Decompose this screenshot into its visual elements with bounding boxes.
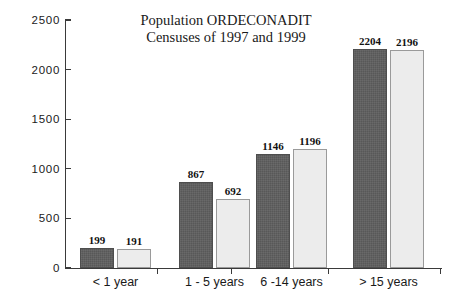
category-label: > 15 years	[359, 275, 418, 289]
y-axis-tick-label: 500	[16, 212, 60, 224]
category-label: 6 -14 years	[260, 275, 323, 289]
category-label: < 1 year	[93, 275, 139, 289]
bar-value-label: 867	[188, 168, 205, 180]
y-axis-tick	[65, 69, 71, 70]
y-axis-tick	[65, 267, 71, 268]
category-label: 1 - 5 years	[185, 275, 244, 289]
y-axis-line	[65, 20, 66, 269]
bar-chart: Population ORDECONADIT Censuses of 1997 …	[0, 0, 452, 305]
bar	[216, 199, 250, 268]
chart-title-line-1: Population ORDECONADIT	[110, 12, 342, 29]
y-axis-tick	[65, 19, 71, 20]
y-axis-tick	[65, 168, 71, 169]
bar-value-label: 191	[126, 235, 143, 247]
bar-value-label: 1146	[262, 140, 283, 152]
y-axis-tick-label: 2500	[16, 14, 60, 26]
bar-value-label: 2204	[359, 35, 381, 47]
x-axis-tick	[157, 268, 158, 274]
y-axis-tick-label: 0	[16, 262, 60, 274]
x-axis-tick	[440, 268, 441, 274]
x-axis-tick	[328, 268, 329, 274]
y-axis-tick-label: 2000	[16, 64, 60, 76]
bar	[390, 50, 424, 268]
bar-value-label: 1196	[299, 135, 320, 147]
y-axis-tick	[65, 119, 71, 120]
bar	[80, 248, 114, 268]
y-axis-tick-label: 1000	[16, 163, 60, 175]
bar	[179, 182, 213, 268]
bar-value-label: 2196	[396, 36, 418, 48]
x-axis-tick	[231, 268, 232, 274]
bar	[256, 154, 290, 268]
bar	[117, 249, 151, 268]
x-axis-line	[65, 268, 442, 269]
bar-value-label: 199	[89, 234, 106, 246]
bar	[353, 49, 387, 268]
chart-title-line-2: Censuses of 1997 and 1999	[110, 29, 342, 46]
y-axis-tick	[65, 218, 71, 219]
bar-value-label: 692	[225, 185, 242, 197]
y-axis-tick-label: 1500	[16, 113, 60, 125]
chart-title: Population ORDECONADIT Censuses of 1997 …	[110, 12, 342, 45]
bar	[293, 149, 327, 268]
